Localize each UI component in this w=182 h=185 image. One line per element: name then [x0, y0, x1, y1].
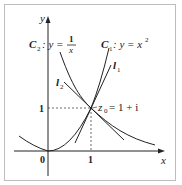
- svg-text:: y = x: : y = x: [113, 38, 142, 50]
- svg-text:2: 2: [145, 36, 149, 44]
- svg-text:1: 1: [117, 66, 121, 74]
- label-c1: C 1 : y = x 2: [101, 36, 149, 53]
- svg-text:2: 2: [37, 45, 41, 53]
- label-l1: l 1: [113, 59, 121, 74]
- svg-text:C: C: [101, 38, 109, 50]
- label-z0: z 0 = 1 + i: [97, 101, 138, 115]
- y-axis-label: y: [39, 12, 45, 24]
- diagram: y x 0 1 1 C 2 : y = 1 x C 1 : y = x 2 l …: [0, 0, 182, 185]
- label-l2: l 2: [56, 76, 64, 91]
- z0-leader: [92, 107, 97, 108]
- y-axis-arrow-icon: [46, 16, 51, 23]
- origin-label: 0: [40, 154, 45, 165]
- x-axis-arrow-icon: [158, 149, 165, 154]
- svg-text:z: z: [97, 101, 103, 113]
- svg-text:: y =: : y =: [42, 38, 63, 50]
- x-axis-label: x: [160, 154, 166, 166]
- tangent-l1: [75, 65, 111, 143]
- svg-text:x: x: [68, 45, 73, 55]
- y-tick-label: 1: [39, 103, 44, 114]
- svg-text:1: 1: [69, 34, 74, 44]
- svg-text:2: 2: [60, 83, 64, 91]
- svg-text:C: C: [29, 38, 37, 50]
- x-tick-label: 1: [88, 154, 93, 165]
- svg-text:= 1 + i: = 1 + i: [109, 101, 138, 113]
- svg-text:0: 0: [104, 107, 108, 115]
- curve-c2: [60, 52, 155, 145]
- label-c2: C 2 : y = 1 x: [29, 34, 76, 55]
